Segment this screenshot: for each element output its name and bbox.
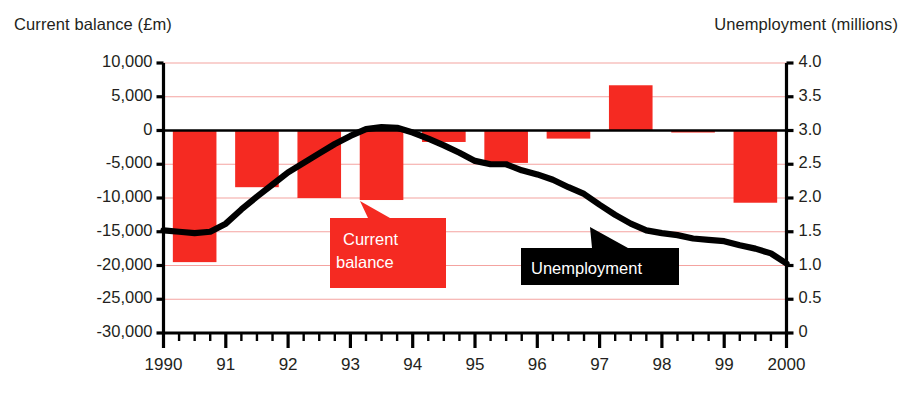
right-tick-label: 3.5 [799,86,822,105]
left-tick-label: 0 [143,120,152,139]
right-tick-label: 0 [799,322,808,341]
left-tick-label: -10,000 [97,187,153,206]
left-tick-label: 10,000 [102,52,152,71]
left-tick-label: -25,000 [97,288,153,307]
left-tick-label: 5,000 [111,86,152,105]
right-tick-label: 1.5 [799,221,822,240]
current-balance-callout-line2: balance [336,252,394,272]
right-tick-label: 3.0 [799,120,822,139]
right-tick-label: 0.5 [799,288,822,307]
right-tick-label: 2.0 [799,187,822,206]
left-tick-label: -20,000 [97,255,153,274]
axis-lines-and-ticks [157,63,794,348]
right-tick-label: 1.0 [799,255,822,274]
left-tick-label: -5,000 [106,153,153,172]
x-tick-label: 2000 [747,355,827,375]
right-tick-label: 2.5 [799,153,822,172]
chart-root: Current balance (£m) Unemployment (milli… [0,0,910,398]
left-tick-label: -15,000 [97,221,153,240]
left-tick-label: -30,000 [97,322,153,341]
current-balance-callout-line1: Current [343,229,398,249]
unemployment-callout-label: Unemployment [531,258,642,278]
right-tick-label: 4.0 [799,52,822,71]
